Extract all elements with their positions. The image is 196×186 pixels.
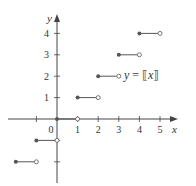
step-segment (76, 96, 101, 100)
open-endpoint-icon (76, 117, 80, 121)
closed-endpoint-icon (76, 96, 80, 100)
x-tick-label: 1 (75, 124, 80, 135)
y-axis-arrow-icon (54, 14, 60, 22)
open-endpoint-icon (137, 53, 141, 57)
x-tick-label: 4 (137, 124, 142, 135)
open-endpoint-icon (96, 96, 100, 100)
y-tick-label: 1 (44, 92, 49, 103)
step-segment (34, 138, 59, 142)
closed-endpoint-icon (117, 53, 121, 57)
function-label: y = ⟦x⟧ (123, 68, 159, 82)
y-tick-label: 2 (44, 71, 49, 82)
x-tick-label: 0 (49, 124, 54, 135)
y-axis-label: y (46, 12, 52, 24)
closed-endpoint-icon (137, 31, 141, 35)
step-segment (117, 53, 142, 57)
x-axis-label: x (171, 123, 177, 135)
open-endpoint-icon (55, 138, 59, 142)
open-endpoint-icon (158, 31, 162, 35)
closed-endpoint-icon (55, 117, 59, 121)
closed-endpoint-icon (96, 74, 100, 78)
x-axis-arrow-icon (170, 116, 178, 122)
step-segments (14, 31, 162, 163)
greatest-integer-chart: xy 0123451234 y = ⟦x⟧ (0, 0, 196, 186)
y-tick-label: 4 (44, 28, 49, 39)
closed-endpoint-icon (14, 160, 18, 164)
x-tick-label: 3 (116, 124, 121, 135)
open-endpoint-icon (117, 74, 121, 78)
step-segment (137, 31, 162, 35)
closed-endpoint-icon (34, 138, 38, 142)
step-segment (14, 160, 39, 164)
x-tick-label: 2 (96, 124, 101, 135)
step-segment (96, 74, 121, 78)
open-endpoint-icon (34, 160, 38, 164)
x-tick-label: 5 (158, 124, 163, 135)
step-segment (55, 117, 80, 121)
y-tick-label: 3 (44, 49, 49, 60)
